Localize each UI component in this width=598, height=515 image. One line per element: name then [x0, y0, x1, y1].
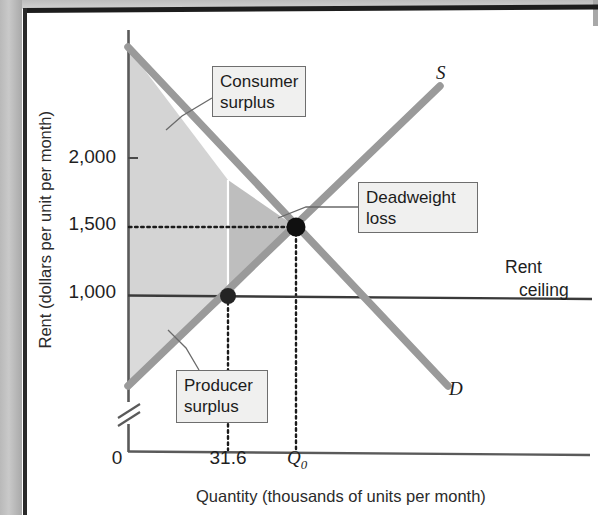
callout-deadweight-loss-line2: loss [366, 208, 470, 229]
callout-consumer-surplus-line1: Consumer [220, 71, 298, 92]
callout-producer-surplus: Producer surplus [176, 370, 268, 423]
x-tick-label-q0-sub: 0 [301, 457, 307, 472]
y-axis-break-icon [118, 404, 140, 426]
callout-deadweight-loss: Deadweight loss [358, 182, 478, 233]
marker-equilibrium [287, 218, 306, 237]
supply-curve-label: S [436, 62, 446, 84]
rent-ceiling-label-line2: ceiling [505, 279, 569, 302]
marker-quantity-at-ceiling [220, 288, 236, 304]
demand-curve-label: D [449, 378, 463, 400]
y-tick-label-2000: 2,000 [46, 146, 116, 168]
callout-consumer-surplus: Consumer surplus [212, 66, 306, 117]
plot-area: Rent (dollars per unit per month) Quanti… [0, 0, 598, 515]
figure-rent-ceiling-diagram: Rent (dollars per unit per month) Quanti… [0, 0, 598, 515]
callout-producer-surplus-line1: Producer [184, 375, 260, 396]
x-tick-label-q0-base: Q [287, 447, 301, 468]
callout-consumer-surplus-line2: surplus [220, 92, 298, 113]
x-axis-title: Quantity (thousands of units per month) [196, 487, 486, 506]
y-tick-label-1000: 1,000 [46, 281, 116, 303]
x-tick-label-q0: Q0 [274, 447, 320, 473]
rent-ceiling-label-line1: Rent [505, 256, 569, 279]
x-tick-label-0: 0 [104, 447, 130, 469]
y-tick-label-1500: 1,500 [46, 213, 116, 235]
x-tick-label-31-6: 31.6 [196, 447, 260, 469]
callout-producer-surplus-line2: surplus [184, 396, 260, 417]
callout-deadweight-loss-line1: Deadweight [366, 187, 470, 208]
rent-ceiling-label: Rent ceiling [505, 256, 569, 302]
